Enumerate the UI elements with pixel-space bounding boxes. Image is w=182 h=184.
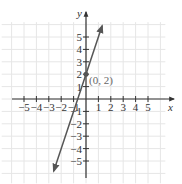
y-tick-label: 2 (77, 68, 83, 80)
data-point (84, 72, 89, 77)
y-tick-label: −5 (70, 155, 82, 167)
chart: −5−4−3−2−112345−5−4−3−2−112345 (0, 2) x … (0, 0, 182, 184)
x-tick-label: 1 (96, 101, 102, 113)
y-tick-label: −4 (70, 143, 82, 155)
x-tick-label: −4 (31, 101, 43, 113)
y-tick-label: −2 (70, 118, 82, 130)
y-tick-label: 3 (77, 56, 83, 68)
x-tick-label: −5 (18, 101, 30, 113)
x-tick-label: −3 (43, 101, 55, 113)
points: (0, 2) (84, 72, 114, 88)
x-tick-label: 5 (145, 101, 151, 113)
x-tick-label: −2 (55, 101, 67, 113)
y-tick-label: −3 (70, 130, 82, 142)
y-tick-label: 5 (77, 31, 83, 43)
y-axis-label: y (76, 7, 82, 19)
x-axis-label: x (167, 101, 173, 113)
point-label: (0, 2) (89, 74, 113, 87)
y-tick-label: 4 (77, 43, 83, 55)
x-tick-label: 2 (108, 101, 114, 113)
x-tick-label: 3 (120, 101, 126, 113)
x-tick-label: 4 (133, 101, 139, 113)
